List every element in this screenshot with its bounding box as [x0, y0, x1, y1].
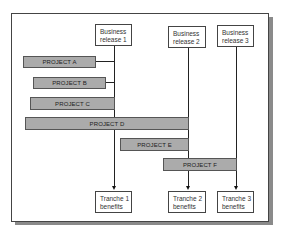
business-release-3-box: Business release 3 — [217, 25, 254, 47]
project-c-bar: PROJECT C — [30, 97, 115, 110]
release-1-arrowhead-icon — [112, 186, 116, 190]
project-f-bar: PROJECT F — [163, 158, 237, 171]
release-1-line — [114, 45, 115, 186]
project-d-bar: PROJECT D — [25, 117, 189, 130]
project-a-bar: PROJECT A — [23, 56, 96, 68]
tranche-1-benefits-box: Tranche 1 benefits — [95, 191, 132, 213]
release-2-arrowhead-icon — [186, 186, 190, 190]
release-3-arrowhead-icon — [234, 186, 238, 190]
project-b-connector — [106, 82, 114, 83]
project-b-bar: PROJECT B — [33, 77, 106, 89]
project-a-connector — [96, 61, 114, 62]
project-e-bar: PROJECT E — [120, 138, 189, 151]
tranche-2-benefits-box: Tranche 2 benefits — [168, 191, 206, 213]
business-release-2-box: Business release 2 — [168, 26, 206, 48]
tranche-3-benefits-box: Tranche 3 benefits — [217, 191, 254, 213]
business-release-1-box: Business release 1 — [95, 24, 132, 46]
